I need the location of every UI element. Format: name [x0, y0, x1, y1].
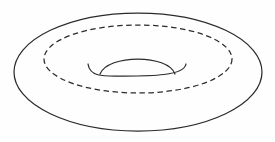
torus-figure — [0, 0, 275, 142]
inner-hole-upper-arc — [100, 59, 175, 74]
outer-silhouette-ellipse — [14, 13, 262, 131]
torus-drawing — [0, 0, 275, 142]
